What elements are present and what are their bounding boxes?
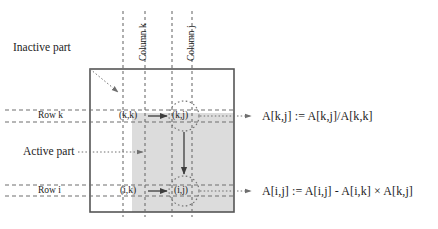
active-region-fill xyxy=(132,113,234,212)
cell-label-ik: (i,k) xyxy=(120,186,136,196)
label-inactive-part: Inactive part xyxy=(13,42,71,54)
label-row-i: Row i xyxy=(38,186,61,196)
cell-label-kj: (k,j) xyxy=(172,111,188,121)
label-active-part: Active part xyxy=(23,146,74,158)
cell-label-kk: (k,k) xyxy=(119,111,137,121)
equation-bottom: A[i,j] := A[i,j] - A[i,k] × A[k,j] xyxy=(262,185,413,197)
diagram-canvas: Inactive part Active part Column k Colum… xyxy=(0,0,438,229)
label-row-k: Row k xyxy=(38,111,63,121)
leader-inactive-part xyxy=(90,69,118,92)
equation-top: A[k,j] := A[k,j]/A[k,k] xyxy=(262,110,373,122)
cell-label-ij: (i,j) xyxy=(174,186,188,196)
label-column-k: Column k xyxy=(138,23,148,61)
label-column-j: Column j xyxy=(186,25,196,61)
